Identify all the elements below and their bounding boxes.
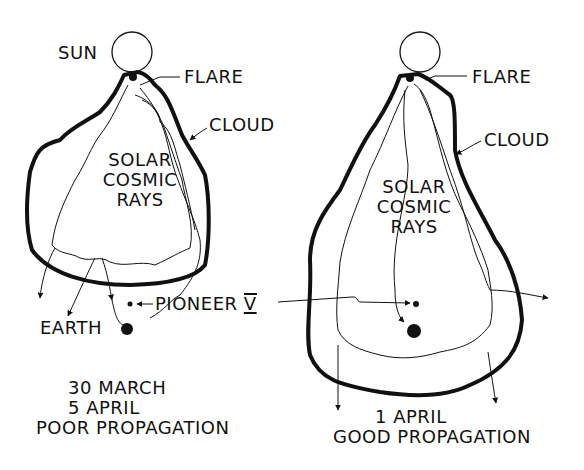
pioneer-label: PIONEER V xyxy=(155,293,257,314)
caption-left: 30 MARCH 5 APRIL POOR PROPAGATION xyxy=(36,378,229,438)
caption-right: 1 APRIL GOOD PROPAGATION xyxy=(333,407,531,447)
pioneer-right xyxy=(413,301,419,307)
pioneer-left xyxy=(128,302,133,307)
sun-right xyxy=(400,32,440,72)
flare-label-right: FLARE xyxy=(472,67,532,87)
pioneer-numeral: V xyxy=(244,293,257,313)
rays-label-right: SOLAR COSMIC RAYS xyxy=(358,177,470,237)
flare-label-left: FLARE xyxy=(184,67,244,87)
cloud-label-right: CLOUD xyxy=(484,130,550,150)
rays-label-left: SOLAR COSMIC RAYS xyxy=(84,150,196,210)
sun-label: SUN xyxy=(58,43,98,63)
earth-right xyxy=(407,324,421,338)
cloud-label-left: CLOUD xyxy=(209,115,275,135)
earth-label: EARTH xyxy=(40,318,102,338)
sun-left xyxy=(112,32,152,72)
earth-left xyxy=(121,323,133,335)
